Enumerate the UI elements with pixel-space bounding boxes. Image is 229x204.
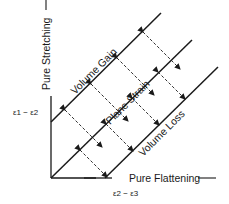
- y-axis-label: Pure Stretching: [40, 17, 52, 90]
- volume-loss-label: Volume Loss: [136, 107, 187, 158]
- y-axis-expression: ε1 − ε2: [13, 108, 39, 117]
- plane-strain-label: Plane Strain: [103, 77, 152, 126]
- volume-loss-line: [105, 67, 218, 178]
- strain-diagram: Pure Stretching Volume Gain Plane Strain…: [0, 0, 229, 204]
- x-axis-expression: ε2 − ε3: [113, 189, 139, 198]
- volume-gain-label: Volume Gain: [68, 45, 119, 96]
- volume-gain-line: [51, 13, 161, 122]
- x-axis-label: Pure Flattening: [129, 172, 200, 184]
